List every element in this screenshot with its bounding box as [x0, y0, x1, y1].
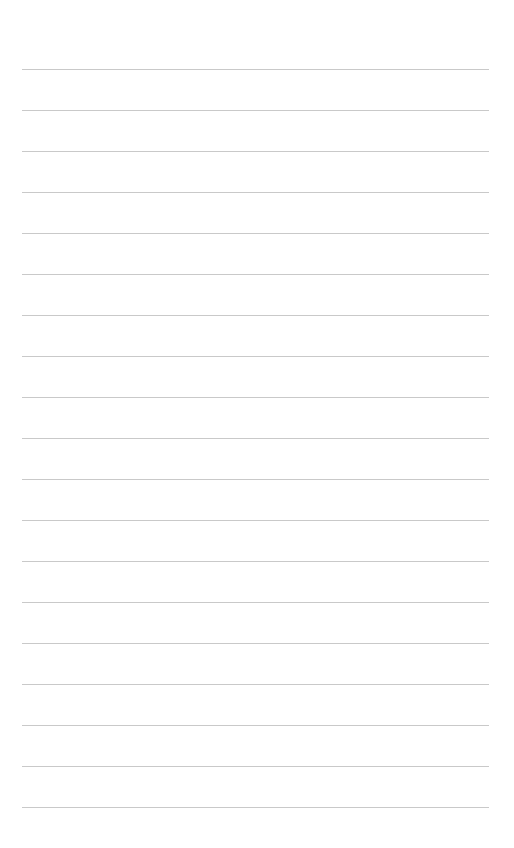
- ruled-line: [22, 561, 489, 562]
- ruled-line: [22, 192, 489, 193]
- ruled-line: [22, 602, 489, 603]
- ruled-line: [22, 69, 489, 70]
- ruled-line: [22, 438, 489, 439]
- lined-paper-page: [0, 0, 514, 848]
- ruled-line: [22, 807, 489, 808]
- ruled-line: [22, 274, 489, 275]
- ruled-line: [22, 479, 489, 480]
- ruled-line: [22, 110, 489, 111]
- ruled-line: [22, 356, 489, 357]
- ruled-line: [22, 315, 489, 316]
- ruled-line: [22, 766, 489, 767]
- ruled-line: [22, 725, 489, 726]
- ruled-line: [22, 643, 489, 644]
- ruled-line: [22, 151, 489, 152]
- ruled-line: [22, 233, 489, 234]
- ruled-line: [22, 684, 489, 685]
- ruled-line: [22, 520, 489, 521]
- ruled-line: [22, 397, 489, 398]
